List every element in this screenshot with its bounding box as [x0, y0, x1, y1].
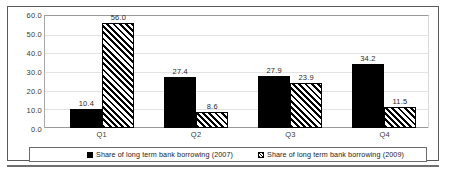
- bar-value-label: 8.6: [196, 102, 228, 111]
- bar-2007: [352, 64, 384, 128]
- y-axis-tick: 20.0: [10, 86, 42, 95]
- plot-area: 10.4 56.0 27.4 8.6 27.9 23.9 34.2 11.5: [44, 15, 429, 128]
- bar-group: 27.4 8.6: [154, 16, 238, 128]
- bar-group: 34.2 11.5: [342, 16, 426, 128]
- chart-legend: Share of long term bank borrowing (2007)…: [29, 147, 427, 162]
- scan-artifact-line: [7, 165, 439, 167]
- x-axis-tick-q4: Q4: [380, 130, 390, 139]
- x-axis-tick-q2: Q2: [191, 130, 201, 139]
- bar-2007: [70, 109, 102, 128]
- bar-value-label: 56.0: [102, 13, 134, 22]
- y-axis: 60.0 50.0 40.0 30.0 20.0 10.0 0.0: [8, 15, 42, 129]
- x-axis: Q1 Q2 Q3 Q4: [44, 130, 429, 143]
- legend-label-2007: Share of long term bank borrowing (2007): [96, 150, 233, 159]
- legend-item-2009[interactable]: Share of long term bank borrowing (2009): [258, 148, 404, 161]
- hatched-square-icon: [258, 152, 264, 158]
- chart-frame: 60.0 50.0 40.0 30.0 20.0 10.0 0.0 10.4 5…: [7, 6, 439, 161]
- bar-2009: [290, 83, 322, 128]
- bar-2007: [164, 77, 196, 128]
- bar-group: 10.4 56.0: [60, 16, 144, 128]
- legend-item-2007[interactable]: Share of long term bank borrowing (2007): [87, 148, 233, 161]
- bar-value-label: 27.9: [258, 66, 290, 75]
- y-axis-tick: 30.0: [10, 68, 42, 77]
- y-axis-tick: 60.0: [10, 11, 42, 20]
- y-axis-tick: 40.0: [10, 48, 42, 57]
- bar-value-label: 11.5: [384, 97, 416, 106]
- bar-value-label: 23.9: [290, 73, 322, 82]
- bar-2007: [258, 76, 290, 128]
- bar-value-label: 10.4: [70, 99, 102, 108]
- y-axis-tick: 10.0: [10, 105, 42, 114]
- bar-value-label: 34.2: [352, 54, 384, 63]
- solid-square-icon: [87, 152, 93, 158]
- bar-group: 27.9 23.9: [248, 16, 332, 128]
- bar-2009: [196, 112, 228, 128]
- x-axis-tick-q1: Q1: [97, 130, 107, 139]
- legend-label-2009: Share of long term bank borrowing (2009): [267, 150, 404, 159]
- bar-2009: [384, 107, 416, 128]
- y-axis-tick: 0.0: [10, 125, 42, 134]
- x-axis-tick-q3: Q3: [285, 130, 295, 139]
- bar-2009: [102, 23, 134, 128]
- y-axis-tick: 50.0: [10, 29, 42, 38]
- bar-value-label: 27.4: [164, 67, 196, 76]
